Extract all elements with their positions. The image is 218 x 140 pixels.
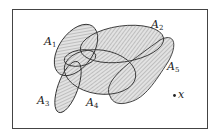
label-x: x xyxy=(178,88,185,101)
set-diagram: A1 A2 A3 A4 A5 x xyxy=(0,0,218,140)
point-x-marker xyxy=(173,94,176,97)
